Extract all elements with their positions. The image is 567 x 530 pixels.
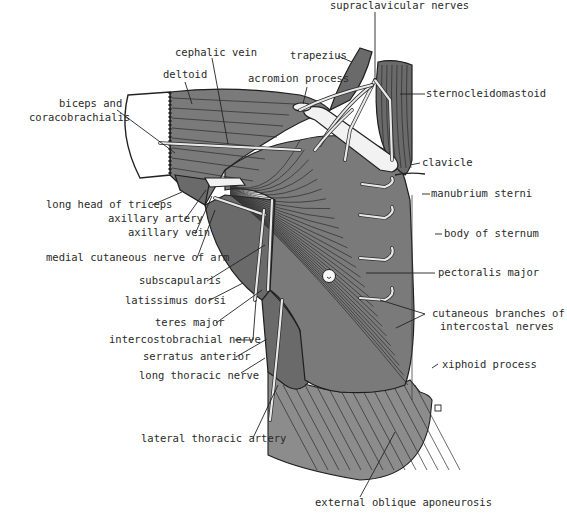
label-intercostobrachial-nerve: intercostobrachial nerve bbox=[109, 333, 261, 345]
label-long-thoracic-nerve: long thoracic nerve bbox=[139, 369, 259, 381]
label-medial-cutaneous-nerve: medial cutaneous nerve of arm bbox=[46, 251, 229, 263]
label-clavicle: clavicle bbox=[422, 156, 473, 168]
label-latissimus-dorsi: latissimus dorsi bbox=[125, 294, 226, 306]
arm-cut-surface bbox=[125, 92, 170, 178]
label-deltoid: deltoid bbox=[163, 68, 207, 80]
label-xiphoid-process: xiphoid process bbox=[442, 358, 537, 370]
label-teres-major: teres major bbox=[155, 316, 225, 328]
label-long-head-triceps: long head of triceps bbox=[46, 198, 172, 210]
label-manubrium-sterni: manubrium sterni bbox=[431, 187, 532, 199]
label-cutaneous-line1: cutaneous branches of bbox=[432, 307, 565, 319]
leader-xiphoid bbox=[432, 364, 438, 368]
label-body-of-sternum: body of sternum bbox=[444, 227, 539, 239]
label-acromion-process: acromion process bbox=[248, 72, 349, 84]
label-external-oblique-aponeurosis: external oblique aponeurosis bbox=[315, 496, 492, 508]
label-axillary-vein: axillary vein bbox=[128, 226, 210, 238]
label-cutaneous-line2: intercostal nerves bbox=[440, 320, 554, 332]
label-axillary-artery: axillary artery bbox=[108, 212, 203, 224]
label-serratus-anterior: serratus anterior bbox=[143, 350, 250, 362]
nipple bbox=[323, 270, 336, 283]
label-sternocleidomastoid: sternocleidomastoid bbox=[426, 87, 546, 99]
label-trapezius: trapezius bbox=[290, 49, 347, 61]
label-biceps-line1: biceps and bbox=[59, 97, 122, 109]
anatomy-figure: supraclavicular nerves trapezius cephali… bbox=[0, 0, 567, 530]
label-cephalic-vein: cephalic vein bbox=[175, 46, 257, 58]
label-lateral-thoracic-artery: lateral thoracic artery bbox=[141, 432, 286, 444]
label-supraclavicular-nerves: supraclavicular nerves bbox=[330, 0, 469, 11]
label-subscapularis: subscapularis bbox=[139, 274, 221, 286]
label-pectoralis-major: pectoralis major bbox=[438, 266, 539, 278]
label-biceps-line2: coracobrachialis bbox=[29, 111, 130, 123]
